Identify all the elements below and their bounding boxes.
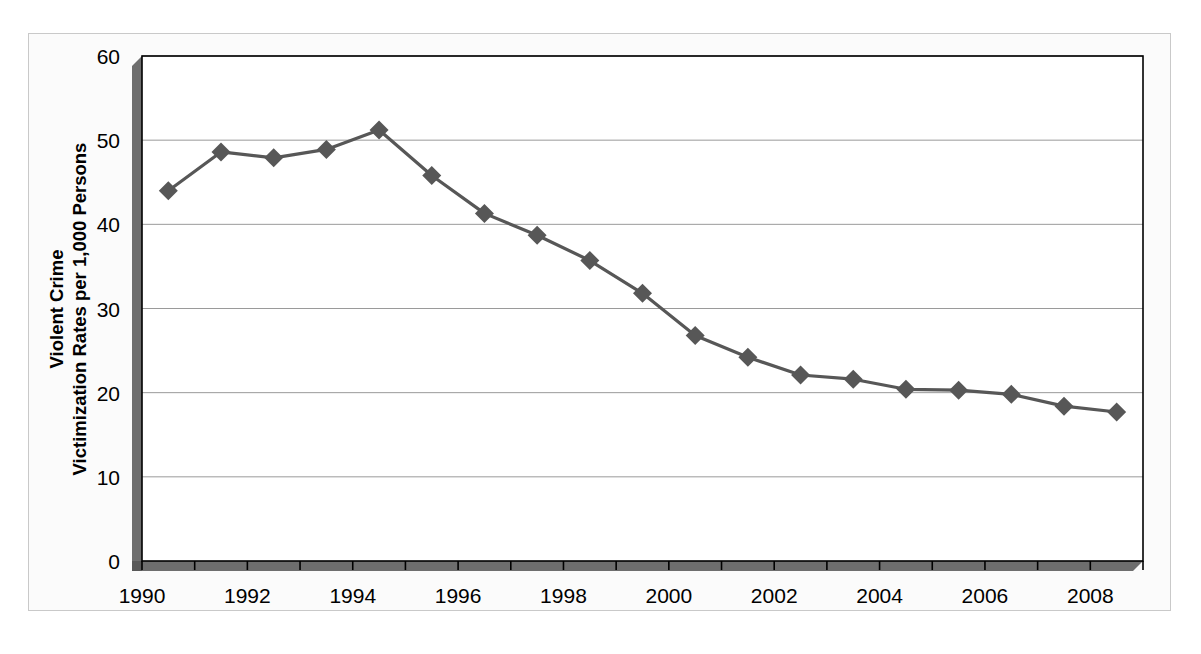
y-tick-label-0: 0: [108, 550, 120, 573]
y-axis-title-line1: Violent Crime: [46, 250, 67, 369]
axis-corner-3d: [132, 561, 142, 571]
x-tick-label-2004: 2004: [856, 584, 903, 607]
x-tick-label-2006: 2006: [962, 584, 1009, 607]
chart-area: 0102030405060 19901992199419961998200020…: [28, 33, 1171, 611]
x-axis-tick-labels: 1990199219941996199820002002200420062008: [119, 584, 1114, 607]
x-tick-label-2000: 2000: [645, 584, 692, 607]
figure-canvas: 0102030405060 19901992199419961998200020…: [0, 0, 1201, 654]
x-tick-label-2002: 2002: [751, 584, 798, 607]
y-axis-tick-labels: 0102030405060: [97, 45, 120, 573]
axis-bottom-floor-3d: [132, 561, 1143, 571]
x-tick-label-2008: 2008: [1067, 584, 1114, 607]
y-tick-label-30: 30: [97, 298, 120, 321]
axis-left-wall-3d: [132, 56, 142, 571]
line-chart: 0102030405060 19901992199419961998200020…: [29, 34, 1170, 610]
y-tick-label-40: 40: [97, 213, 120, 236]
y-axis-title-line2: Victimization Rates per 1,000 Persons: [69, 143, 90, 476]
y-tick-label-50: 50: [97, 129, 120, 152]
y-tick-label-60: 60: [97, 45, 120, 68]
x-tick-label-1992: 1992: [224, 584, 271, 607]
x-tick-label-1994: 1994: [329, 584, 376, 607]
y-tick-label-20: 20: [97, 382, 120, 405]
x-tick-label-1998: 1998: [540, 584, 587, 607]
x-tick-label-1996: 1996: [435, 584, 482, 607]
y-tick-label-10: 10: [97, 466, 120, 489]
x-tick-label-1990: 1990: [119, 584, 166, 607]
y-axis-title: Violent Crime Victimization Rates per 1,…: [46, 143, 90, 476]
